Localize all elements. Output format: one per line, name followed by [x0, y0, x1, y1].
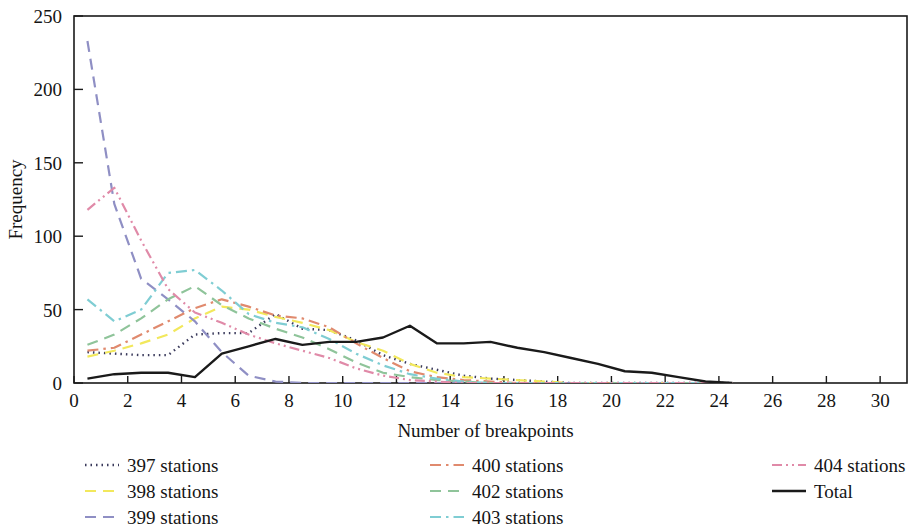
legend-label-398-stations: 398 stations [127, 481, 218, 502]
x-tick-label: 0 [69, 390, 79, 411]
x-tick-label: 26 [763, 390, 782, 411]
x-tick-label: 4 [177, 390, 187, 411]
legend-label-400-stations: 400 stations [472, 455, 563, 476]
x-tick-label: 28 [817, 390, 836, 411]
x-tick-label: 24 [709, 390, 729, 411]
y-tick-label: 250 [34, 6, 63, 27]
legend-label-399-stations: 399 stations [127, 507, 218, 528]
legend-label-404-stations: 404 stations [814, 455, 905, 476]
x-tick-label: 8 [284, 390, 294, 411]
series-group [87, 41, 732, 383]
x-tick-label: 12 [387, 390, 406, 411]
legend-label-402-stations: 402 stations [472, 481, 563, 502]
y-tick-label: 100 [34, 226, 63, 247]
plot-frame [74, 16, 907, 383]
x-tick-label: 20 [602, 390, 621, 411]
y-tick-label: 0 [53, 373, 63, 394]
x-tick-label: 14 [441, 390, 461, 411]
series-line-404-stations [87, 188, 732, 383]
breakpoint-frequency-chart: 0246810121416182022242628300501001502002… [0, 0, 919, 532]
y-tick-label: 50 [43, 300, 62, 321]
series-line-402-stations [87, 286, 732, 383]
x-tick-label: 18 [548, 390, 567, 411]
x-tick-label: 2 [123, 390, 133, 411]
legend-label-403-stations: 403 stations [472, 507, 563, 528]
y-tick-label: 150 [34, 153, 63, 174]
x-tick-label: 16 [494, 390, 513, 411]
x-tick-label: 6 [230, 390, 240, 411]
x-axis-title: Number of breakpoints [397, 420, 573, 441]
figure-container: 0246810121416182022242628300501001502002… [0, 0, 919, 532]
y-tick-label: 200 [34, 79, 63, 100]
x-tick-label: 30 [871, 390, 890, 411]
legend-label-397-stations: 397 stations [127, 455, 218, 476]
legend-label-total: Total [814, 481, 853, 502]
x-tick-label: 10 [333, 390, 352, 411]
y-axis-title: Frequency [5, 159, 26, 240]
series-line-399-stations [87, 41, 732, 383]
x-tick-label: 22 [656, 390, 675, 411]
